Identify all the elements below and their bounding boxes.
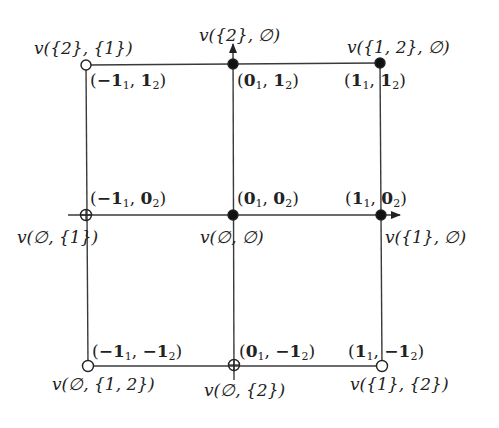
coord-label-mid-right: (11, 02): [345, 190, 407, 209]
coord-label-bottom-right: (11, −12): [348, 343, 424, 362]
node-filled-marker: [228, 210, 238, 220]
vertex-label-top-right: v({1, 2}, ∅): [347, 39, 450, 56]
node-open-marker: [377, 361, 388, 372]
vertex-label-mid-left: v(∅, {1}): [17, 229, 98, 246]
lattice-diagram: v({2}, {1}) v({2}, ∅) v({1, 2}, ∅) v(∅, …: [0, 0, 499, 428]
coord-label-mid-mid: (01, 02): [237, 190, 299, 209]
coord-label-top-right: (11, 12): [344, 72, 406, 91]
vertex-label-bottom-mid: v(∅, {2}): [204, 382, 285, 399]
vertex-label-mid-right: v({1}, ∅): [385, 229, 466, 246]
vertex-label-bottom-left: v(∅, {1, 2}): [52, 376, 155, 393]
node-filled-marker: [375, 58, 385, 68]
node-open-marker: [83, 361, 94, 372]
node-open-marker: [81, 60, 91, 70]
coord-label-mid-left: (−11, 02): [90, 190, 166, 209]
coord-label-top-mid: (01, 12): [237, 72, 299, 91]
vertex-label-top-mid: v({2}, ∅): [199, 27, 280, 44]
diagram-graphics: [0, 0, 499, 428]
node-filled-marker: [376, 210, 386, 220]
coord-label-top-left: (−11, 12): [90, 72, 166, 91]
vertex-label-top-left: v({2}, {1}): [34, 40, 133, 57]
vertex-label-bottom-right: v({1}, {2}): [350, 376, 449, 393]
coord-label-bottom-mid: (01, −12): [239, 343, 315, 362]
coord-label-bottom-left: (−11, −12): [92, 343, 182, 362]
node-filled-marker: [228, 59, 238, 69]
vertex-label-mid-mid: v(∅, ∅): [200, 229, 264, 246]
